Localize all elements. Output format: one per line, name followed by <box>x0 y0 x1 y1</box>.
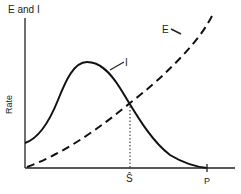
e-label-leader <box>171 29 181 34</box>
chart: E and I Rate I E Ŝ P <box>0 0 241 194</box>
y-axis-label: Rate <box>4 95 14 114</box>
series-e-label: E <box>162 24 169 35</box>
tick-s-hat: Ŝ <box>126 172 133 184</box>
tick-p: P <box>204 176 210 186</box>
i-label-leader <box>110 62 124 70</box>
series-i-label: I <box>125 57 128 68</box>
series-e-curve <box>27 14 213 167</box>
top-label: E and I <box>8 4 40 15</box>
series-i-curve <box>25 62 207 168</box>
